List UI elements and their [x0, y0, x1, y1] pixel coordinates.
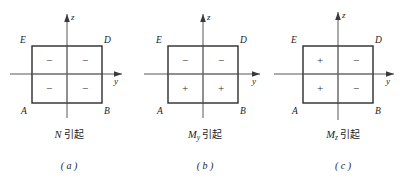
panel-c-sign-top-left: + — [317, 54, 323, 66]
panel-a-caption: N引起 — [0, 128, 138, 145]
panel-a-cause-symbol: N — [54, 129, 61, 140]
panel-c-sign-bottom-left: + — [317, 82, 323, 94]
panel-b-diagram: z y E D A B − − + + — [136, 0, 274, 128]
panel-a-y-label: y — [113, 76, 118, 86]
panel-b-corner-b: B — [240, 106, 246, 116]
panel-c-diagram: z y E D A B + − + − — [274, 0, 412, 128]
panel-a-corner-a: A — [20, 106, 27, 116]
panel-b-sign-bottom-left: + — [182, 82, 188, 94]
panel-a-sign-bottom-right: − — [82, 82, 88, 94]
panel-b-z-arrowhead — [200, 14, 206, 22]
panel-c-z-label: z — [341, 10, 346, 20]
panel-b-corner-a: A — [156, 106, 163, 116]
panel-a-sign-bottom-left: − — [46, 82, 52, 94]
panel-c-index-label: ( c ) — [274, 160, 412, 171]
panel-c-sign-bottom-right: − — [353, 82, 359, 94]
panel-a: z y E D A B − − − − N引起 ( a ) — [0, 0, 138, 191]
panel-a-corner-d: D — [103, 35, 111, 45]
panel-a-cause-text: 引起 — [64, 129, 84, 140]
panel-a-corner-b: B — [104, 106, 110, 116]
panel-a-sign-top-left: − — [46, 54, 52, 66]
panel-b-sign-top-left: − — [182, 54, 188, 66]
panel-b: z y E D A B − − + + My引起 ( b ) — [136, 0, 274, 191]
panel-a-z-label: z — [70, 12, 75, 22]
panel-b-y-label: y — [251, 76, 256, 86]
panel-a-sign-top-right: − — [82, 54, 88, 66]
panel-b-cause-symbol: M — [188, 129, 197, 140]
panel-b-cause-subscript: y — [197, 133, 200, 142]
panel-a-z-arrowhead — [64, 14, 70, 22]
panel-c-cause-subscript: z — [335, 133, 338, 142]
panel-c: z y E D A B + − + − Mz引起 ( c ) — [274, 0, 412, 191]
panel-b-cause-text: 引起 — [202, 129, 222, 140]
panel-c-corner-d: D — [374, 35, 382, 45]
panel-c-cause-symbol: M — [326, 129, 335, 140]
panel-a-corner-e: E — [19, 35, 26, 45]
panel-a-diagram: z y E D A B − − − − — [0, 0, 138, 128]
panel-b-index-label: ( b ) — [136, 160, 274, 171]
panel-b-sign-top-right: − — [218, 54, 224, 66]
panel-c-corner-b: B — [375, 106, 381, 116]
panel-c-y-label: y — [385, 76, 390, 86]
panel-c-caption: Mz引起 — [274, 128, 412, 145]
panel-c-z-arrowhead — [335, 12, 341, 20]
panel-c-sign-top-right: − — [353, 54, 359, 66]
panel-b-corner-e: E — [155, 35, 162, 45]
panel-c-corner-e: E — [290, 35, 297, 45]
panel-b-z-label: z — [206, 12, 211, 22]
panel-c-corner-a: A — [291, 106, 298, 116]
panel-a-index-label: ( a ) — [0, 160, 138, 171]
panel-b-sign-bottom-right: + — [218, 82, 224, 94]
stress-sign-figure: z y E D A B − − − − N引起 ( a ) — [0, 0, 414, 191]
panel-b-corner-d: D — [239, 35, 247, 45]
panel-b-caption: My引起 — [136, 128, 274, 145]
panel-c-cause-text: 引起 — [340, 129, 360, 140]
